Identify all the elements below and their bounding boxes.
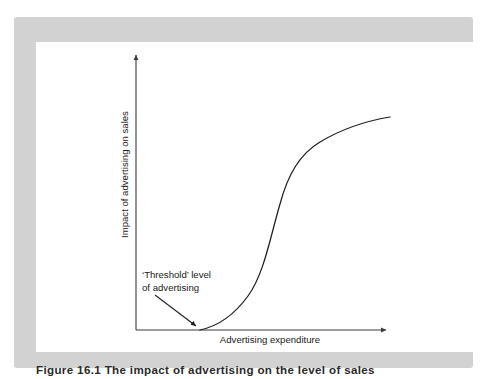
plot-panel: Impact of advertising on sales Advertisi…: [36, 42, 478, 352]
figure-caption: Figure 16.1 The impact of advertising on…: [36, 358, 478, 379]
figure-container: Impact of advertising on sales Advertisi…: [0, 0, 487, 379]
response-curve: [200, 117, 390, 330]
annotation-leader-line: [155, 295, 196, 326]
annotation-line-1: ‘Threshold’ level: [142, 269, 211, 280]
figure-frame: Impact of advertising on sales Advertisi…: [14, 17, 473, 368]
figure-caption-text: Figure 16.1 The impact of advertising on…: [36, 364, 375, 376]
y-axis-label: Impact of advertising on sales: [119, 111, 130, 238]
x-axis-label: Advertising expenditure: [220, 334, 320, 345]
annotation-line-2: of advertising: [142, 282, 199, 293]
chart-canvas: Impact of advertising on sales Advertisi…: [36, 42, 478, 352]
